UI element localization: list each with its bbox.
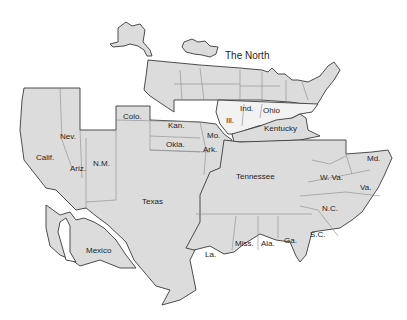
label-mo: Mo. (207, 131, 220, 140)
label-kentucky: Kentucky (264, 124, 297, 133)
label-ala: Ala. (261, 239, 275, 248)
label-ill: Ill. (226, 116, 234, 125)
label-wva: W. Va. (320, 173, 343, 182)
label-ariz: Ariz. (70, 164, 86, 173)
label-ga: Ga. (284, 236, 297, 245)
label-miss: Miss. (235, 239, 254, 248)
label-kan: Kan. (168, 121, 184, 130)
label-texas: Texas (142, 197, 163, 206)
label-la: La. (205, 250, 216, 259)
label-tennessee: Tennessee (236, 172, 275, 181)
alaska-shape (110, 22, 152, 56)
label-nm: N.M. (93, 159, 110, 168)
label-md: Md. (367, 154, 380, 163)
label-ohio: Ohio (263, 106, 280, 115)
label-nc: N.C. (322, 204, 338, 213)
label-colo: Colo. (123, 112, 142, 121)
label-ind: Ind. (240, 104, 253, 113)
label-sc: S.C. (310, 230, 326, 239)
label-nev: Nev. (60, 132, 76, 141)
map-canvas (0, 0, 407, 320)
label-va: Va. (360, 183, 371, 192)
label-ark: Ark. (203, 145, 217, 154)
island-shape (182, 39, 218, 57)
label-calif: Calif. (36, 153, 54, 162)
label-north: The North (225, 50, 269, 61)
label-okla: Okla. (166, 140, 185, 149)
label-mexico: Mexico (86, 246, 111, 255)
